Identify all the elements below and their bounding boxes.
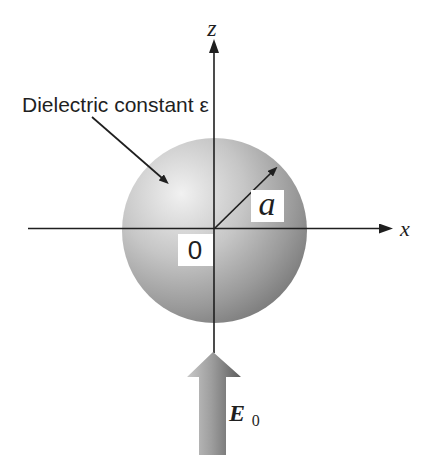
figure-canvas: a 0 z x Dielectric constant ε E 0 bbox=[0, 0, 429, 473]
z-axis-label: z bbox=[206, 15, 217, 41]
origin-label: 0 bbox=[188, 235, 202, 265]
radius-label: a bbox=[259, 185, 276, 222]
x-axis-label: x bbox=[399, 216, 410, 241]
dielectric-sphere-figure: a 0 z x Dielectric constant ε E 0 bbox=[0, 0, 429, 473]
dielectric-constant-label: Dielectric constant ε bbox=[22, 93, 209, 116]
field-label-symbol: E bbox=[228, 400, 245, 426]
field-label: E 0 bbox=[228, 399, 260, 429]
field-label-subscript: 0 bbox=[252, 412, 260, 429]
dielectric-pointer-arrow bbox=[92, 117, 162, 178]
